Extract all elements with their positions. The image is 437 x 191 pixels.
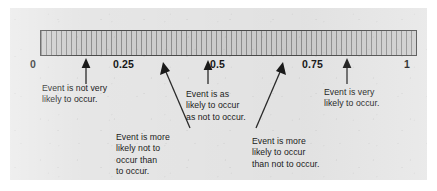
callout-more-likely-to: Event is more likely to occur than not t… — [252, 136, 320, 170]
callout-not-very-likely: Event is not very likely to occur. — [42, 83, 107, 106]
callout-as-likely-as-not: Event is as likely to occur as not to oc… — [186, 89, 246, 123]
arrow-more-likely-to — [250, 58, 296, 130]
tick-label-1: 1 — [404, 58, 410, 70]
figure-root: 0 0.25 0.5 0.75 1 — [0, 0, 437, 191]
arrow-very-likely — [341, 58, 353, 84]
tick-label-0.25: 0.25 — [113, 58, 134, 70]
callout-more-likely-not: Event is more likely not to occur than t… — [116, 132, 170, 178]
tick-label-0: 0 — [30, 58, 36, 70]
probability-scale-bar — [40, 30, 417, 56]
arrow-not-very-likely — [80, 58, 92, 84]
callout-very-likely: Event is very likely to occur. — [324, 87, 379, 110]
tick-label-0.5: 0.5 — [210, 58, 225, 70]
tick-label-0.75: 0.75 — [302, 58, 323, 70]
figure-panel: 0 0.25 0.5 0.75 1 — [10, 8, 427, 180]
